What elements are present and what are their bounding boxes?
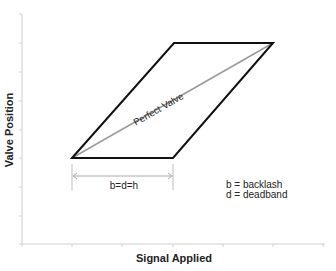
valve-hysteresis-diagram: Perfect Valve b=d=h b = backlash d = dea…	[0, 0, 336, 271]
legend: b = backlash d = deadband	[226, 179, 287, 200]
legend-deadband: d = deadband	[226, 189, 287, 200]
axes	[22, 14, 325, 244]
x-axis-title: Signal Applied	[136, 252, 212, 264]
perfect-valve-label: Perfect Valve	[131, 90, 185, 127]
dimension-label: b=d=h	[110, 180, 138, 191]
dimension-indicator: b=d=h	[72, 164, 173, 191]
y-axis-title: Valve Position	[3, 92, 15, 167]
